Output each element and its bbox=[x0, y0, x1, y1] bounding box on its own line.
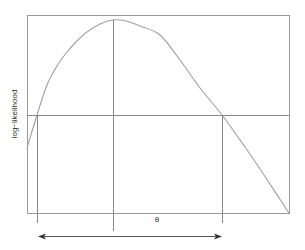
log-likelihood-curve bbox=[27, 20, 289, 213]
x-axis-label: θ bbox=[155, 215, 160, 224]
interval-arrow bbox=[38, 234, 222, 240]
log-likelihood-diagram: log−likelihood θ bbox=[0, 0, 305, 250]
y-axis-label: log−likelihood bbox=[10, 90, 19, 139]
plot-frame bbox=[28, 16, 290, 214]
